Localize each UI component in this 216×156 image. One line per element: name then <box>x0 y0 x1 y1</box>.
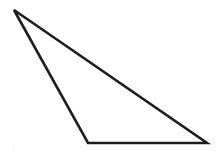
triangle-figure <box>0 0 216 156</box>
figure-canvas <box>0 0 216 156</box>
background-speck <box>11 144 16 152</box>
